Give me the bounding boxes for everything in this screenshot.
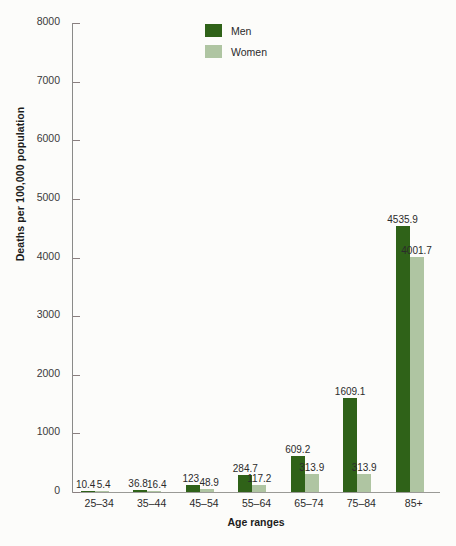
bar-women[interactable]: 117.2 [252, 485, 266, 492]
bar-value-label: 609.2 [285, 444, 310, 455]
bar-value-label: 36.8 [128, 478, 147, 489]
plot-area: 010002000300040005000600070008000 10.45.… [72, 23, 456, 492]
bar-group: 284.7117.255–64 [230, 23, 282, 492]
bar-men[interactable]: 36.8 [133, 490, 147, 492]
x-tick-label: 45–54 [189, 497, 218, 509]
y-tick-label: 1000 [37, 425, 60, 437]
x-tick-label: 65–74 [294, 497, 323, 509]
bar-group: 609.2313.965–74 [283, 23, 335, 492]
bar-value-label: 4535.9 [387, 214, 418, 225]
bar-men[interactable]: 10.4 [81, 491, 95, 492]
y-tick-label: 6000 [37, 132, 60, 144]
bar-value-label: 48.9 [199, 477, 218, 488]
bar-value-label: 313.9 [352, 462, 377, 473]
bar-men[interactable]: 1609.1 [343, 398, 357, 492]
x-tick-label: 35–44 [137, 497, 166, 509]
y-tick-label: 8000 [37, 15, 60, 27]
x-tick-label: 85+ [405, 497, 423, 509]
y-tick-mark [73, 492, 80, 493]
bar-chart: Deaths per 100,000 population Men Women … [0, 0, 456, 546]
bar-women[interactable]: 5.4 [95, 491, 109, 492]
y-axis-title: Deaths per 100,000 population [14, 104, 26, 264]
bar-value-label: 1609.1 [335, 386, 366, 397]
y-tick: 0 [72, 492, 80, 493]
bar-groups: 10.45.425–3436.816.435–4412348.945–54284… [73, 23, 440, 492]
bar-women[interactable]: 4001.7 [410, 257, 424, 492]
bar-group: 1609.1313.975–84 [335, 23, 387, 492]
x-axis-line [72, 492, 440, 493]
y-tick-label: 0 [54, 484, 60, 496]
y-tick-label: 4000 [37, 250, 60, 262]
bar-group: 12348.945–54 [178, 23, 230, 492]
bar-women[interactable]: 313.9 [357, 474, 371, 492]
bar-value-label: 10.4 [76, 479, 95, 490]
x-tick-label: 25–34 [85, 497, 114, 509]
x-axis-title: Age ranges [72, 516, 440, 528]
y-tick-label: 5000 [37, 191, 60, 203]
bar-group: 10.45.425–34 [73, 23, 125, 492]
bar-value-label: 4001.7 [401, 245, 432, 256]
bar-group: 36.816.435–44 [125, 23, 177, 492]
bar-women[interactable]: 48.9 [200, 489, 214, 492]
bar-value-label: 5.4 [97, 479, 111, 490]
y-tick-label: 3000 [37, 308, 60, 320]
bar-women[interactable]: 313.9 [305, 474, 319, 492]
bar-value-label: 313.9 [299, 462, 324, 473]
bar-men[interactable]: 4535.9 [396, 226, 410, 492]
bar-women[interactable]: 16.4 [147, 491, 161, 492]
bar-value-label: 117.2 [247, 473, 271, 484]
bar-men[interactable]: 123 [186, 485, 200, 492]
y-tick-label: 7000 [37, 74, 60, 86]
bar-group: 4535.94001.785+ [388, 23, 440, 492]
bar-value-label: 16.4 [147, 479, 166, 490]
y-tick-label: 2000 [37, 367, 60, 379]
bar-value-label: 123 [182, 473, 199, 484]
x-tick-label: 75–84 [347, 497, 376, 509]
x-tick-label: 55–64 [242, 497, 271, 509]
